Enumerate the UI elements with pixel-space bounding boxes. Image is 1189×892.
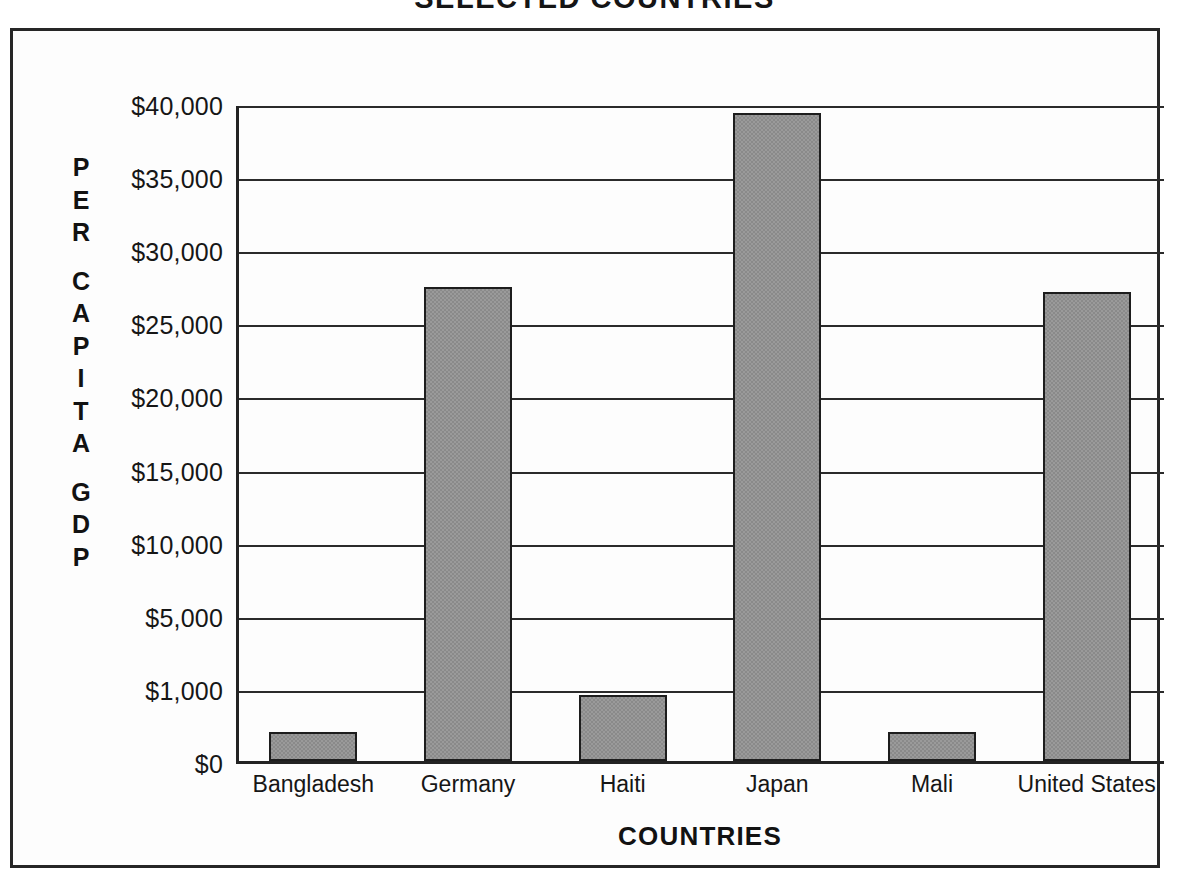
y-axis-title: PERCAPITAGDP	[61, 151, 101, 573]
gridline	[239, 252, 1164, 254]
y-axis-title-letter: A	[61, 297, 101, 330]
x-axis-line	[236, 761, 1164, 764]
y-tick-label: $1,000	[145, 676, 223, 705]
y-tick-label: $10,000	[131, 530, 223, 559]
y-axis-title-letter: T	[61, 395, 101, 428]
x-tick-label: Japan	[746, 771, 809, 798]
bar	[424, 287, 512, 761]
y-axis-title-gap	[61, 249, 101, 265]
y-axis-title-gap	[61, 460, 101, 476]
y-axis-title-letter: P	[61, 151, 101, 184]
bar	[888, 732, 976, 761]
y-tick-label: $15,000	[131, 457, 223, 486]
chart-frame: PERCAPITAGDP $40,000$35,000$30,000$25,00…	[10, 28, 1160, 868]
y-axis-title-letter: P	[61, 541, 101, 574]
y-axis-tick-labels: $40,000$35,000$30,000$25,000$20,000$15,0…	[103, 106, 223, 764]
bar	[733, 113, 821, 761]
gridline	[239, 545, 1164, 547]
y-tick-label: $5,000	[145, 603, 223, 632]
bar	[269, 732, 357, 761]
x-tick-label: Germany	[421, 771, 516, 798]
y-tick-label: $25,000	[131, 311, 223, 340]
y-tick-label: $0	[195, 750, 223, 779]
bar	[1043, 292, 1131, 761]
y-axis-line	[236, 106, 239, 764]
x-axis-title: COUNTRIES	[236, 821, 1164, 852]
y-axis-title-letter: G	[61, 476, 101, 509]
y-axis-title-letter: C	[61, 265, 101, 298]
y-tick-label: $30,000	[131, 238, 223, 267]
gridline	[239, 398, 1164, 400]
x-tick-label: Haiti	[600, 771, 646, 798]
x-tick-label: United States	[1018, 771, 1156, 798]
y-axis-title-letter: P	[61, 330, 101, 363]
bar	[579, 695, 667, 761]
plot-area	[236, 106, 1164, 764]
y-axis-title-letter: E	[61, 184, 101, 217]
gridline	[239, 106, 1164, 108]
y-axis-title-letter: A	[61, 427, 101, 460]
chart-title: SELECTED COUNTRIES	[0, 0, 1189, 15]
x-axis-tick-labels: BangladeshGermanyHaitiJapanMaliUnited St…	[236, 771, 1164, 811]
gridline	[239, 472, 1164, 474]
gridline	[239, 325, 1164, 327]
y-axis-title-letter: I	[61, 362, 101, 395]
y-axis-title-letter: D	[61, 508, 101, 541]
gridline	[239, 618, 1164, 620]
gridline	[239, 179, 1164, 181]
y-axis-title-letter: R	[61, 216, 101, 249]
x-tick-label: Bangladesh	[253, 771, 375, 798]
y-tick-label: $35,000	[131, 165, 223, 194]
gridline	[239, 691, 1164, 693]
x-tick-label: Mali	[911, 771, 953, 798]
y-tick-label: $20,000	[131, 384, 223, 413]
y-tick-label: $40,000	[131, 92, 223, 121]
